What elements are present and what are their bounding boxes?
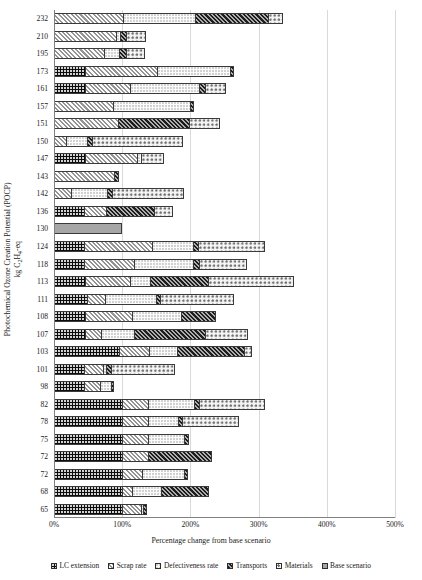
bar-segment-scrap-rate bbox=[122, 416, 148, 427]
bar-row bbox=[54, 259, 247, 270]
bar-row bbox=[54, 504, 147, 515]
legend-item[interactable]: LC extension bbox=[51, 561, 99, 570]
bar-segment-lc-extension bbox=[54, 294, 87, 305]
bar-segment-lc-extension bbox=[54, 469, 122, 480]
bar-row bbox=[54, 399, 265, 410]
y-tick-label: 72 bbox=[40, 451, 48, 462]
bar-segment-defectiveness-rate bbox=[113, 101, 191, 112]
x-axis-line bbox=[54, 517, 395, 518]
legend-item[interactable]: Materials bbox=[276, 561, 312, 570]
legend-item[interactable]: Scrap rate bbox=[108, 561, 146, 570]
bar-segment-lc-extension bbox=[54, 206, 84, 217]
bar-segment-scrap-rate bbox=[84, 381, 100, 392]
bar-row bbox=[54, 171, 119, 182]
y-tick-label: 232 bbox=[37, 13, 48, 24]
bar-segment-defectiveness-rate bbox=[100, 381, 110, 392]
bar-segment-defectiveness-rate bbox=[152, 241, 193, 252]
y-tick-label: 82 bbox=[40, 399, 48, 410]
bar-segment-transports bbox=[118, 118, 189, 129]
bar-segment-defectiveness-rate bbox=[66, 136, 86, 147]
bar-segment-defectiveness-rate bbox=[148, 399, 194, 410]
bar-segment-defectiveness-rate bbox=[149, 346, 176, 357]
bar-row bbox=[54, 364, 175, 375]
bar-segment-lc-extension bbox=[54, 416, 122, 427]
bar-segment-materials bbox=[208, 276, 294, 287]
bar-segment-scrap-rate bbox=[84, 259, 134, 270]
bar-row bbox=[54, 486, 209, 497]
gridline-500 bbox=[395, 10, 396, 518]
y-tick-label: 98 bbox=[40, 381, 48, 392]
bar-row bbox=[54, 83, 226, 94]
y-tick-label: 103 bbox=[37, 346, 48, 357]
y-tick-label: 161 bbox=[37, 83, 48, 94]
bar-segment-scrap-rate bbox=[54, 31, 116, 42]
bar-segment-scrap-rate bbox=[54, 13, 123, 24]
bar-row bbox=[54, 381, 114, 392]
bar-segment-scrap-rate bbox=[84, 206, 106, 217]
bar-segment-defectiveness-rate bbox=[130, 83, 198, 94]
bar-row bbox=[54, 101, 194, 112]
y-tick-label: 130 bbox=[37, 223, 48, 234]
y-tick-label: 136 bbox=[37, 206, 48, 217]
legend-label: Scrap rate bbox=[117, 561, 147, 570]
bar-series-container bbox=[54, 10, 395, 518]
bar-row bbox=[54, 206, 173, 217]
bar-segment-defectiveness-rate bbox=[157, 66, 230, 77]
bar-segment-scrap-rate bbox=[54, 171, 114, 182]
bar-row bbox=[54, 451, 212, 462]
bar-segment-lc-extension bbox=[54, 486, 122, 497]
x-axis-title: Percentage change from base scenario bbox=[0, 536, 422, 545]
bar-row bbox=[54, 118, 220, 129]
bar-row bbox=[54, 31, 146, 42]
bar-segment-transports bbox=[184, 469, 188, 480]
bar-segment-materials bbox=[154, 206, 173, 217]
legend-label: LC extension bbox=[60, 561, 100, 570]
y-tick-label: 72 bbox=[40, 469, 48, 480]
bar-segment-scrap-rate bbox=[84, 364, 103, 375]
bar-segment-lc-extension bbox=[54, 381, 84, 392]
bar-segment-transports bbox=[148, 451, 211, 462]
bar-segment-defectiveness-rate bbox=[134, 259, 193, 270]
bar-segment-scrap-rate bbox=[85, 276, 130, 287]
bar-segment-materials bbox=[111, 364, 175, 375]
bar-segment-materials bbox=[141, 153, 164, 164]
y-tick-label: 195 bbox=[37, 48, 48, 59]
x-axis-tick-labels: 0%100%200%300%400%500% bbox=[54, 520, 395, 534]
y-tick-label: 173 bbox=[37, 66, 48, 77]
y-tick-label: 78 bbox=[40, 416, 48, 427]
bar-segment-lc-extension bbox=[54, 399, 122, 410]
bar-segment-lc-extension bbox=[54, 364, 84, 375]
bar-segment-scrap-rate bbox=[85, 66, 157, 77]
legend-item[interactable]: Base scenario bbox=[322, 561, 371, 570]
bar-segment-transports bbox=[177, 346, 244, 357]
y-tick-label: 108 bbox=[37, 311, 48, 322]
bar-segment-transports bbox=[161, 486, 209, 497]
bar-row bbox=[54, 416, 239, 427]
bar-row bbox=[54, 13, 283, 24]
bar-segment-transports bbox=[143, 504, 148, 515]
bar-segment-lc-extension bbox=[54, 153, 85, 164]
plot-area bbox=[54, 10, 395, 518]
legend-swatch-icon bbox=[276, 563, 282, 569]
bar-segment-transports bbox=[184, 434, 189, 445]
bar-row bbox=[54, 188, 184, 199]
bar-row bbox=[54, 434, 189, 445]
bar-row bbox=[54, 48, 145, 59]
legend-swatch-icon bbox=[155, 563, 161, 569]
bar-segment-lc-extension bbox=[54, 259, 84, 270]
bar-segment-scrap-rate bbox=[54, 101, 113, 112]
bar-segment-lc-extension bbox=[54, 241, 84, 252]
bar-segment-lc-extension bbox=[54, 346, 119, 357]
bar-segment-transports bbox=[181, 311, 216, 322]
bar-segment-transports bbox=[106, 206, 154, 217]
bar-segment-scrap-rate bbox=[119, 346, 150, 357]
bar-segment-scrap-rate bbox=[54, 188, 71, 199]
bar-segment-defectiveness-rate bbox=[130, 276, 150, 287]
bar-segment-scrap-rate bbox=[122, 504, 140, 515]
y-tick-label: 147 bbox=[37, 153, 48, 164]
legend-item[interactable]: Defectiveness rate bbox=[155, 561, 218, 570]
bar-segment-lc-extension bbox=[54, 504, 122, 515]
bar-segment-scrap-rate bbox=[54, 48, 104, 59]
legend-label: Defectiveness rate bbox=[164, 561, 218, 570]
legend-item[interactable]: Transports bbox=[227, 561, 267, 570]
